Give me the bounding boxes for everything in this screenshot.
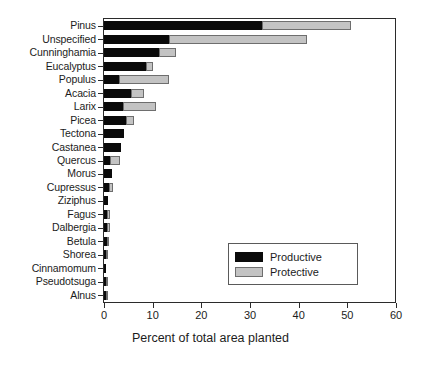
- y-axis-label-acacia: Acacia: [0, 88, 96, 99]
- bar-segment-protective: [119, 75, 169, 84]
- y-axis-label-dalbergia: Dalbergia: [0, 222, 96, 233]
- y-axis-label-morus: Morus: [0, 168, 96, 179]
- y-axis-label-cinnamomum: Cinnamomum: [0, 263, 96, 274]
- bar-segment-protective: [107, 237, 109, 246]
- y-axis-label-tectona: Tectona: [0, 128, 96, 139]
- y-tick-mark: [98, 93, 103, 94]
- bar-segment-protective: [106, 250, 108, 259]
- bar-segment-protective: [109, 183, 113, 192]
- y-axis-label-eucalyptus: Eucalyptus: [0, 61, 96, 72]
- bar-segment-productive: [104, 129, 124, 138]
- y-axis-label-pseudotsuga: Pseudotsuga: [0, 276, 96, 287]
- y-tick-mark: [98, 120, 103, 121]
- bar-segment-protective: [262, 21, 352, 30]
- bar-segment-productive: [104, 89, 131, 98]
- y-tick-mark: [98, 187, 103, 188]
- x-tick-mark: [299, 303, 300, 308]
- bar-segment-productive: [104, 116, 126, 125]
- legend-item-productive: Productive: [235, 249, 351, 264]
- x-tick-mark: [153, 303, 154, 308]
- bar-segment-protective: [107, 210, 110, 219]
- bar-segment-protective: [146, 62, 153, 71]
- bar-segment-productive: [104, 169, 112, 178]
- y-tick-mark: [98, 39, 103, 40]
- bar-segment-productive: [104, 48, 159, 57]
- y-axis-label-larix: Larix: [0, 101, 96, 112]
- y-axis-label-cupressus: Cupressus: [0, 182, 96, 193]
- y-axis-label-betula: Betula: [0, 236, 96, 247]
- y-axis-label-cunninghamia: Cunninghamia: [0, 47, 96, 58]
- bar-segment-productive: [104, 62, 146, 71]
- y-tick-mark: [98, 214, 103, 215]
- y-axis-label-ziziphus: Ziziphus: [0, 195, 96, 206]
- y-tick-mark: [98, 107, 103, 108]
- y-axis-label-alnus: Alnus: [0, 290, 96, 301]
- bar-segment-protective: [131, 89, 144, 98]
- x-tick-mark: [104, 303, 105, 308]
- y-tick-mark: [98, 282, 103, 283]
- forest-plantation-species-chart: PinusUnspecifiedCunninghamiaEucalyptusPo…: [0, 0, 421, 366]
- y-tick-mark: [98, 53, 103, 54]
- y-axis-label-unspecified: Unspecified: [0, 34, 96, 45]
- bar-segment-productive: [104, 196, 108, 205]
- bar-segment-productive: [104, 75, 119, 84]
- bar-segment-productive: [104, 264, 106, 273]
- y-axis-label-castanea: Castanea: [0, 142, 96, 153]
- x-tick-mark: [396, 303, 397, 308]
- bar-segment-protective: [107, 223, 110, 232]
- x-tick-label: 20: [181, 309, 221, 322]
- y-axis-label-pinus: Pinus: [0, 20, 96, 31]
- y-tick-mark: [98, 201, 103, 202]
- bar-segment-protective: [126, 116, 134, 125]
- y-tick-mark: [98, 26, 103, 27]
- legend-swatch-protective-icon: [235, 267, 263, 277]
- bar-segment-protective: [159, 48, 176, 57]
- y-tick-mark: [98, 161, 103, 162]
- bar-segment-protective: [106, 277, 108, 286]
- legend-label-productive: Productive: [270, 251, 322, 263]
- y-axis-label-shorea: Shorea: [0, 249, 96, 260]
- y-tick-mark: [98, 268, 103, 269]
- bar-segment-productive: [104, 21, 262, 30]
- x-tick-mark: [347, 303, 348, 308]
- x-tick-label: 60: [376, 309, 416, 322]
- x-tick-label: 30: [230, 309, 270, 322]
- x-axis-title: Percent of total area planted: [0, 331, 421, 345]
- y-tick-mark: [98, 174, 103, 175]
- bar-segment-protective: [110, 156, 120, 165]
- bar-segment-productive: [104, 102, 123, 111]
- legend-label-protective: Protective: [270, 266, 319, 278]
- legend-swatch-productive-icon: [235, 252, 263, 262]
- y-tick-mark: [98, 255, 103, 256]
- y-tick-mark: [98, 295, 103, 296]
- y-tick-mark: [98, 134, 103, 135]
- y-axis-label-fagus: Fagus: [0, 209, 96, 220]
- x-tick-mark: [201, 303, 202, 308]
- y-tick-mark: [98, 241, 103, 242]
- y-tick-mark: [98, 228, 103, 229]
- bar-segment-protective: [169, 35, 308, 44]
- bar-segment-protective: [123, 102, 156, 111]
- chart-legend: Productive Protective: [228, 243, 358, 285]
- x-tick-label: 0: [84, 309, 124, 322]
- bar-segment-protective: [106, 291, 108, 300]
- y-axis-label-populus: Populus: [0, 74, 96, 85]
- bar-segment-productive: [104, 143, 121, 152]
- x-tick-label: 50: [327, 309, 367, 322]
- y-tick-mark: [98, 66, 103, 67]
- bar-segment-productive: [104, 35, 169, 44]
- legend-item-protective: Protective: [235, 264, 351, 279]
- x-tick-label: 10: [133, 309, 173, 322]
- y-tick-mark: [98, 147, 103, 148]
- x-tick-label: 40: [279, 309, 319, 322]
- y-tick-mark: [98, 80, 103, 81]
- y-axis-label-quercus: Quercus: [0, 155, 96, 166]
- y-axis-category-labels: PinusUnspecifiedCunninghamiaEucalyptusPo…: [0, 14, 96, 306]
- y-axis-label-picea: Picea: [0, 115, 96, 126]
- x-tick-mark: [250, 303, 251, 308]
